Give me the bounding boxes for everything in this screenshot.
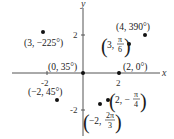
- y-tick-label-2: 2: [73, 30, 78, 40]
- frac-den: 3: [108, 121, 112, 130]
- point-marker: [41, 30, 45, 34]
- frac-den: 4: [134, 100, 138, 109]
- frac-den: 6: [118, 45, 122, 54]
- x-tick-label-2: 2: [116, 78, 121, 88]
- frac-num: 2π: [106, 111, 114, 120]
- point-label-4-390: (4, 390°): [116, 22, 150, 33]
- point-marker: [117, 71, 121, 75]
- x-axis-label: x: [161, 67, 167, 78]
- point-label-2-negpi4-r: 2, −: [115, 95, 130, 105]
- point-marker: [55, 98, 59, 102]
- point-marker: [81, 71, 85, 75]
- point-marker: [98, 102, 102, 106]
- point-marker: [143, 33, 147, 37]
- frac-num: π: [118, 35, 122, 44]
- polar-diagram: x y -2 2 2 -2 (3, −225°) (4, 390°) ( 3, …: [0, 0, 174, 139]
- y-axis-label: y: [80, 0, 86, 9]
- frac-num: π: [134, 90, 138, 99]
- paren-right: ): [140, 90, 147, 113]
- point-label-neg2-45: (−2, 45°): [28, 87, 62, 98]
- paren-right: ): [115, 111, 122, 134]
- point-label-2-0: (2, 0°): [123, 62, 147, 73]
- paren-right: ): [124, 35, 131, 58]
- point-label-3-neg225: (3, −225°): [24, 38, 63, 49]
- point-label-0-35: (0, 35°): [48, 62, 77, 73]
- point-label-3-pi6-r: 3,: [107, 40, 114, 50]
- point-label-neg2-2pi3-r: −2,: [89, 116, 101, 126]
- y-tick-label-neg2: -2: [70, 105, 78, 115]
